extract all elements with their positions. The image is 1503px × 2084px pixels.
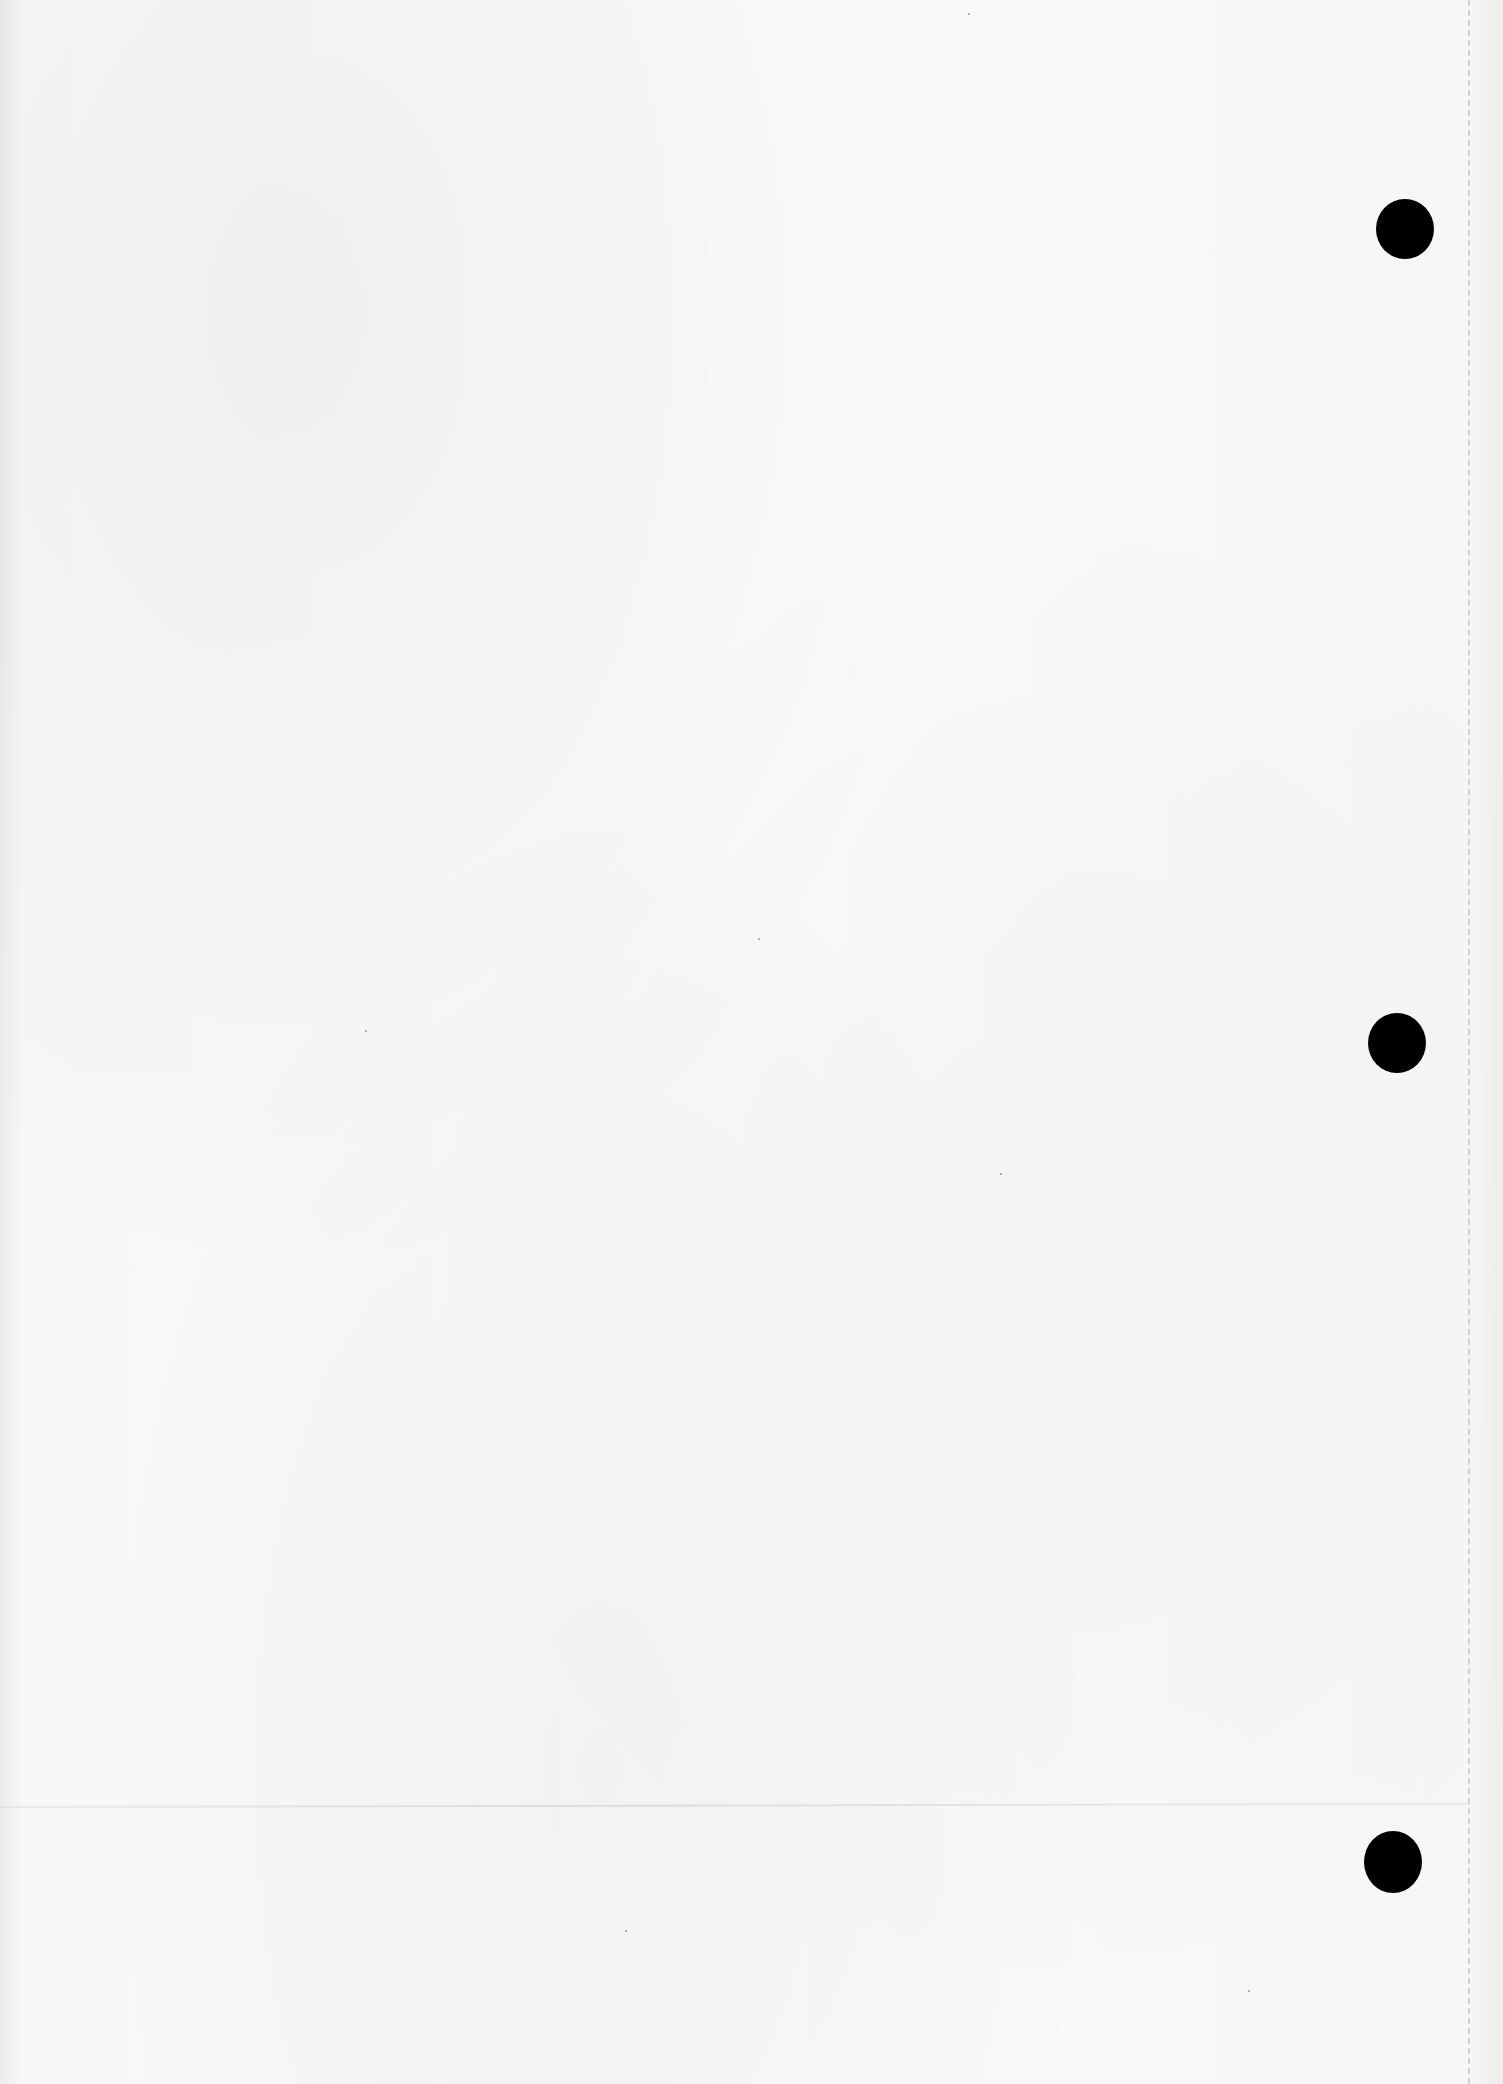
punch-hole-top: [1376, 199, 1434, 259]
punch-hole-bottom: [1364, 1831, 1422, 1893]
perforation-line: [1468, 0, 1470, 2084]
fold-line: [0, 1803, 1470, 1808]
paper-speck: [365, 1030, 367, 1032]
punch-hole-middle: [1368, 1013, 1426, 1073]
paper-speck: [1000, 1173, 1002, 1175]
paper-speck: [625, 1930, 627, 1932]
paper-speck: [758, 938, 760, 940]
paper-speck: [968, 13, 970, 15]
paper-speck: [1248, 1990, 1250, 1992]
paper-sheet: [0, 0, 1503, 2084]
